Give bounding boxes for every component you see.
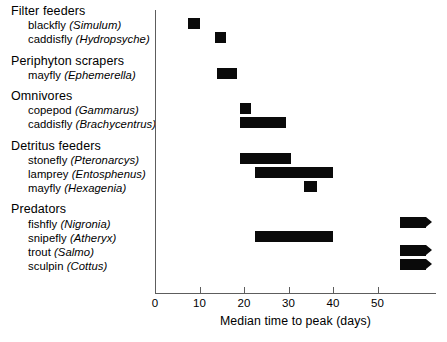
x-tick-label: 50: [371, 297, 384, 310]
range-bar: [240, 117, 287, 128]
species-label: trout (Salmo): [0, 245, 180, 259]
category-label-column: Filter feedersblackfly (Simulum)caddisfl…: [0, 0, 155, 300]
group-label: Periphyton scrapers: [0, 54, 163, 68]
range-bar: [400, 245, 427, 256]
species-scientific-name: (Ephemerella): [64, 69, 136, 81]
species-common-name: caddisfly: [28, 33, 72, 45]
species-label: stonefly (Pteronarcys): [0, 153, 180, 167]
species-scientific-name: (Nigronia): [60, 218, 110, 230]
x-tick-label: 20: [238, 297, 251, 310]
x-tick: [378, 287, 379, 293]
range-bar: [240, 153, 291, 164]
species-label: fishfly (Nigronia): [0, 217, 180, 231]
range-bar: [217, 68, 237, 79]
species-label: snipefly (Atheryx): [0, 231, 180, 245]
species-common-name: snipefly: [28, 232, 67, 244]
species-common-name: mayfly: [28, 69, 61, 81]
species-scientific-name: (Brachycentrus): [76, 118, 156, 130]
species-common-name: copepod: [28, 104, 72, 116]
species-common-name: sculpin: [28, 260, 64, 272]
range-bar: [215, 32, 226, 43]
species-scientific-name: (Gammarus): [75, 104, 139, 116]
species-label: sculpin (Cottus): [0, 259, 180, 273]
range-bar: [255, 167, 333, 178]
x-tick-label: 0: [152, 297, 158, 310]
x-tick-label: 40: [327, 297, 340, 310]
x-axis-title: Median time to peak (days): [155, 314, 436, 328]
range-bar: [240, 103, 251, 114]
x-tick: [333, 287, 334, 293]
species-scientific-name: (Hydropsyche): [76, 33, 150, 45]
species-label: copepod (Gammarus): [0, 103, 180, 117]
species-scientific-name: (Simulum): [69, 19, 121, 31]
range-bar: [188, 18, 199, 29]
range-bar: [304, 181, 317, 192]
species-label: caddisfly (Brachycentrus): [0, 117, 180, 131]
species-common-name: fishfly: [28, 218, 57, 230]
species-common-name: blackfly: [28, 19, 66, 31]
range-bar: [400, 217, 427, 228]
x-tick-label: 10: [193, 297, 206, 310]
species-label: mayfly (Hexagenia): [0, 181, 180, 195]
range-bar: [400, 259, 427, 270]
species-label: caddisfly (Hydropsyche): [0, 32, 180, 46]
group-label: Detritus feeders: [0, 139, 163, 153]
x-tick: [200, 287, 201, 293]
x-tick-label: 30: [282, 297, 295, 310]
species-scientific-name: (Atheryx): [70, 232, 116, 244]
x-axis-line: [155, 293, 436, 294]
species-common-name: lamprey: [28, 168, 69, 180]
range-bar: [255, 231, 333, 242]
species-scientific-name: (Hexagenia): [64, 182, 126, 194]
chart-figure: Filter feedersblackfly (Simulum)caddisfl…: [0, 0, 447, 342]
species-scientific-name: (Cottus): [67, 260, 108, 272]
species-common-name: mayfly: [28, 182, 61, 194]
plot-area: 01020304050 Median time to peak (days): [155, 0, 447, 342]
group-label: Omnivores: [0, 89, 163, 103]
species-common-name: stonefly: [28, 154, 67, 166]
group-label: Filter feeders: [0, 4, 163, 18]
y-axis-line: [155, 10, 156, 294]
species-scientific-name: (Pteronarcys): [71, 154, 139, 166]
species-scientific-name: (Salmo): [54, 246, 94, 258]
x-tick: [155, 287, 156, 293]
species-common-name: trout: [28, 246, 51, 258]
species-label: lamprey (Entosphenus): [0, 167, 180, 181]
species-common-name: caddisfly: [28, 118, 72, 130]
species-label: blackfly (Simulum): [0, 18, 180, 32]
x-tick: [289, 287, 290, 293]
species-scientific-name: (Entosphenus): [72, 168, 146, 180]
group-label: Predators: [0, 202, 163, 216]
species-label: mayfly (Ephemerella): [0, 68, 180, 82]
x-tick: [244, 287, 245, 293]
